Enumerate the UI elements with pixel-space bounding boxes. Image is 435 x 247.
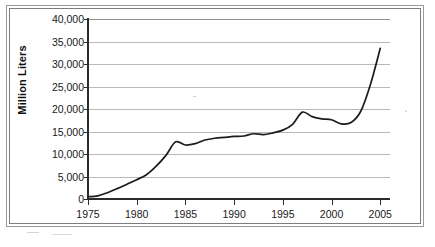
x-axis-tick-label: 1995 (271, 208, 294, 220)
x-axis-tick-label: 1975 (76, 208, 99, 220)
x-axis-tick-mark (137, 200, 138, 205)
scan-speckle (405, 110, 407, 112)
x-axis-tick-mark (380, 200, 381, 205)
scan-speckle (52, 234, 72, 235)
scan-speckle (27, 232, 39, 233)
y-axis-tick-label: 10,000 (22, 148, 84, 160)
x-axis-tick-label: 1980 (125, 208, 148, 220)
y-axis-tick-labels: 05,00010,00015,00020,00025,00030,00035,0… (18, 19, 84, 199)
y-axis-tick-label: 25,000 (22, 81, 84, 93)
y-axis-tick-label: 40,000 (22, 13, 84, 25)
chart-figure: Million Liters 05,00010,00015,00020,0002… (0, 0, 435, 247)
y-axis-tick-label: 5,000 (22, 171, 84, 183)
y-axis-tick-label: 35,000 (22, 36, 84, 48)
y-axis-tick-label: 20,000 (22, 103, 84, 115)
y-axis-tick-label: 30,000 (22, 58, 84, 70)
x-axis-tick-marks (88, 200, 390, 206)
x-axis-tick-label: 2005 (369, 208, 392, 220)
data-series-plot (88, 19, 390, 199)
x-axis-tick-mark (234, 200, 235, 205)
x-axis-tick-mark (185, 200, 186, 205)
x-axis-tick-label: 2000 (320, 208, 343, 220)
x-axis-tick-mark (332, 200, 333, 205)
x-axis-tick-mark (88, 200, 89, 205)
x-axis-tick-label: 1990 (222, 208, 245, 220)
data-series-line (88, 48, 380, 197)
y-axis-tick-label: 15,000 (22, 126, 84, 138)
x-axis-tick-labels: 1975198019851990199520002005 (88, 208, 390, 222)
y-axis-tick-label: 0 (22, 193, 84, 205)
scan-speckle (193, 96, 196, 97)
x-axis-tick-mark (283, 200, 284, 205)
x-axis-tick-label: 1985 (174, 208, 197, 220)
